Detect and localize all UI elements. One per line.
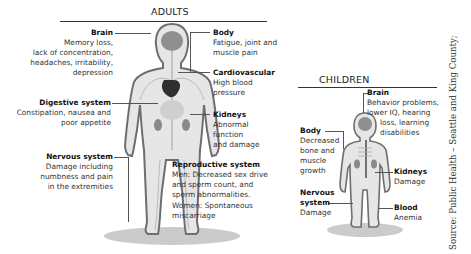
source-credit: Source: Public Health – Seattle and King… <box>448 35 458 250</box>
child-body-title: Body <box>300 126 350 136</box>
child-brain-title: Brain <box>367 88 447 98</box>
child-kidneys-label: Kidneys Damage <box>394 167 444 187</box>
child-nervous-label: Nervous system Damage <box>300 188 350 218</box>
child-kidneys-leader-line <box>375 172 393 173</box>
child-nervous-title-line1: Nervous <box>300 188 350 198</box>
child-brain-label: Brain Behavior problems, lower IQ, heari… <box>367 88 447 138</box>
child-kidneys-title: Kidneys <box>394 167 444 177</box>
child-nervous-title-line2: system <box>300 198 350 208</box>
child-body-label: Body Decreased bone and muscle growth <box>300 126 350 176</box>
child-blood-label: Blood Anemia <box>394 203 444 223</box>
child-blood-leader-line <box>378 208 393 209</box>
child-brain-leader-line-vertical <box>363 93 364 113</box>
child-blood-title: Blood <box>394 203 444 213</box>
